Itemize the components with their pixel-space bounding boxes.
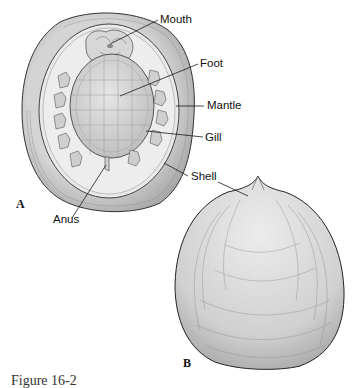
label-shell: Shell xyxy=(191,171,217,183)
panel-label-a: A xyxy=(16,198,25,210)
panel-a-organism xyxy=(22,13,194,212)
label-foot: Foot xyxy=(200,58,223,70)
label-mouth: Mouth xyxy=(160,14,192,26)
label-gill: Gill xyxy=(205,132,222,144)
label-anus: Anus xyxy=(53,214,79,226)
figure-caption: Figure 16-2 xyxy=(11,374,77,388)
conical-shell xyxy=(175,176,344,369)
anus xyxy=(105,157,109,171)
foot xyxy=(70,54,154,158)
label-mantle: Mantle xyxy=(207,100,242,112)
panel-label-b: B xyxy=(183,357,191,369)
panel-b-shell xyxy=(175,176,344,369)
